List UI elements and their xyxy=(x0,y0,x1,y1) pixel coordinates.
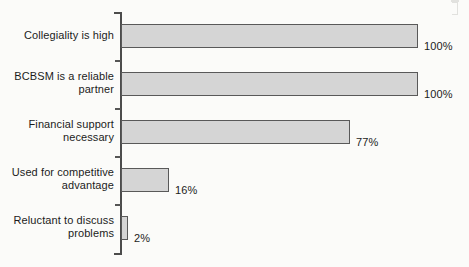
category-label-line2: necessary xyxy=(0,131,114,144)
category-label: BCBSM is a reliable partner xyxy=(0,70,114,96)
bar xyxy=(121,216,128,240)
bar xyxy=(121,72,418,96)
horizontal-bar-chart: Collegiality is high 100% BCBSM is a rel… xyxy=(0,0,469,267)
bar-value-label: 77% xyxy=(356,136,378,149)
bar-value-label: 100% xyxy=(424,40,453,53)
category-label: Collegiality is high xyxy=(0,29,114,42)
category-label-line2: problems xyxy=(0,227,114,240)
bar-value-label: 100% xyxy=(424,88,453,101)
bar-row: Financial support necessary 77% xyxy=(0,108,469,156)
bar xyxy=(121,120,350,144)
bar xyxy=(121,168,169,192)
category-label-line1: Collegiality is high xyxy=(0,29,114,42)
category-label-line1: Used for competitive xyxy=(0,166,114,179)
category-label-line2: advantage xyxy=(0,179,114,192)
bar xyxy=(121,24,418,48)
category-label-line1: Reluctant to discuss xyxy=(0,214,114,227)
category-label-line1: Financial support xyxy=(0,118,114,131)
bar-row: Reluctant to discuss problems 2% xyxy=(0,204,469,252)
bar-value-label: 2% xyxy=(134,232,150,245)
category-label-line2: partner xyxy=(0,83,114,96)
axis-cap-bottom xyxy=(114,253,121,255)
bar-row: BCBSM is a reliable partner 100% xyxy=(0,60,469,108)
bar-value-label: 16% xyxy=(175,184,197,197)
bar-row: Used for competitive advantage 16% xyxy=(0,156,469,204)
category-label: Reluctant to discuss problems xyxy=(0,214,114,240)
category-label: Used for competitive advantage xyxy=(0,166,114,192)
category-label: Financial support necessary xyxy=(0,118,114,144)
bar-row: Collegiality is high 100% xyxy=(0,12,469,60)
category-label-line1: BCBSM is a reliable xyxy=(0,70,114,83)
plot-area: Collegiality is high 100% BCBSM is a rel… xyxy=(0,0,469,267)
